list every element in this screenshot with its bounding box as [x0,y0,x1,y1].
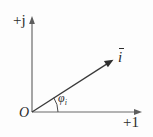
imaginary-axis [29,16,35,112]
angle-label-subscript: i [65,98,67,107]
angle-label: φi [58,92,67,107]
origin-label: O [19,106,29,120]
phasor-vector-line [32,64,107,112]
real-axis-label: +1 [123,115,139,130]
phasor-vector-label: i [118,48,124,65]
phasor-diagram-figure: +j +1 O i φi [0,0,153,137]
phasor-vector-arrowhead-icon [104,60,114,68]
angle-label-symbol: φ [58,91,65,105]
phasor-vector-label-text: i [118,49,122,65]
phasor-vector-i [32,60,114,112]
imaginary-axis-label: +j [13,13,26,28]
imaginary-axis-arrowhead-icon [29,16,35,24]
